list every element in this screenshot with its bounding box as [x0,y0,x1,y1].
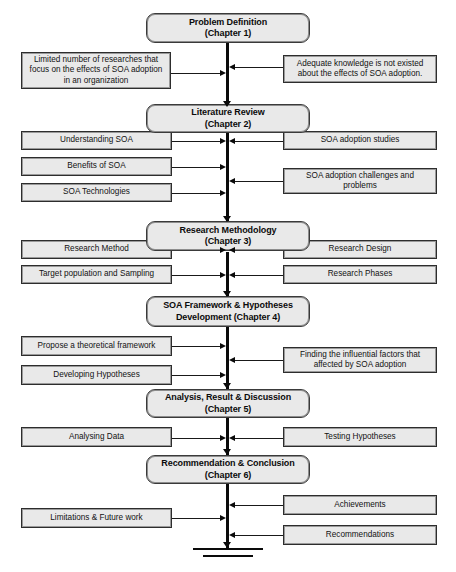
side-node-line1: Finding the influential factors that [300,350,420,361]
chapter-title-line1: Analysis, Result & Discussion [165,392,291,404]
side-node-soa-adoption-studies[interactable]: SOA adoption studies [283,131,437,150]
side-node-line1: Understanding SOA [60,135,133,146]
arrowhead-right-icon [220,70,226,76]
chapter-title-line2: (Chapter 5) [205,404,251,416]
side-node-line1: Achievements [334,500,385,511]
arrowhead-left-icon [229,247,235,253]
terminator-bar-wide [193,548,263,550]
chapter-title-line1: SOA Framework & Hypotheses [163,300,293,312]
chapter-title-line2: (Chapter 2) [205,119,251,131]
arrowhead-right-icon [220,343,226,349]
chapter-node-soa-framework-hypotheses[interactable]: SOA Framework & Hypotheses Development (… [146,296,310,327]
side-node-limitations-future-work[interactable]: Limitations & Future work [21,508,172,528]
side-node-line1: Research Phases [328,269,393,280]
connector-left-to-spine [172,346,222,347]
connector-right-to-spine [234,275,283,276]
side-node-line1: SOA Technologies [63,187,130,198]
arrowhead-left-icon [229,357,235,363]
chapter-title-line2: Development (Chapter 4) [176,312,280,324]
arrowhead-right-icon [220,164,226,170]
connector-left-to-spine [172,375,222,376]
flowchart-diagram: Problem Definition (Chapter 1) Limited n… [0,0,456,572]
side-node-adequate-knowledge[interactable]: Adequate knowledge is not existed about … [283,55,437,83]
chapter-title-line2: (Chapter 6) [205,470,251,482]
connector-right-to-spine [234,535,283,536]
connector-left-to-spine [172,518,222,519]
arrowhead-left-icon [229,178,235,184]
side-node-line1: Research Design [329,244,392,255]
side-node-recommendations[interactable]: Recommendations [283,525,437,545]
side-node-line1: Limited number of researches that [34,55,158,66]
connector-left-to-spine [171,73,222,74]
chapter-title-line1: Recommendation & Conclusion [161,458,294,470]
arrowhead-down-icon [223,216,231,222]
arrowhead-down-icon [223,101,231,107]
connector-left-to-spine [172,275,222,276]
side-node-line1: Adequate knowledge is not existed [297,59,424,70]
chapter-title-line2: (Chapter 3) [205,236,251,248]
side-node-soa-technologies[interactable]: SOA Technologies [21,183,172,202]
side-node-line1: Research Method [64,244,129,255]
side-node-finding-influential-factors[interactable]: Finding the influential factors that aff… [283,347,437,373]
side-node-line2: problems [343,181,377,192]
side-node-line1: Analysing Data [69,432,124,443]
connector-left-to-spine [172,193,222,194]
arrowhead-left-icon [229,272,235,278]
side-node-developing-hypotheses[interactable]: Developing Hypotheses [21,365,172,385]
side-node-line2: focus on the effects of SOA adoption [30,65,163,76]
terminator-bar-narrow [203,555,253,557]
chapter-node-research-methodology[interactable]: Research Methodology (Chapter 3) [146,221,310,251]
arrowhead-left-icon [229,435,235,441]
main-spine-segment [226,42,229,108]
side-node-line1: Testing Hypotheses [324,432,395,443]
chapter-title-line2: (Chapter 1) [205,28,251,40]
arrowhead-down-icon [223,291,231,297]
connector-left-to-spine [172,141,222,142]
chapter-node-recommendation-conclusion[interactable]: Recommendation & Conclusion (Chapter 6) [146,455,310,484]
side-node-limited-researches[interactable]: Limited number of researches that focus … [21,52,171,89]
arrowhead-left-icon [229,64,235,70]
side-node-testing-hypotheses[interactable]: Testing Hypotheses [283,427,437,447]
arrowhead-left-icon [229,138,235,144]
arrowhead-right-icon [220,190,226,196]
chapter-title-line1: Literature Review [191,107,264,119]
side-node-line2: about the effects of SOA adoption. [298,69,423,80]
side-node-line1: Target population and Sampling [39,269,154,280]
side-node-line1: Benefits of SOA [67,161,125,172]
side-node-research-phases[interactable]: Research Phases [283,265,437,284]
side-node-line3: in an organization [64,76,129,87]
arrowhead-down-icon [223,449,231,455]
side-node-understanding-soa[interactable]: Understanding SOA [21,131,172,150]
side-node-benefits-of-soa[interactable]: Benefits of SOA [21,157,172,176]
arrowhead-left-icon [229,532,235,538]
side-node-target-population-sampling[interactable]: Target population and Sampling [21,265,172,284]
chapter-node-literature-review[interactable]: Literature Review (Chapter 2) [146,104,310,133]
side-node-line1: Developing Hypotheses [53,370,139,381]
connector-right-to-spine [234,67,283,68]
connector-left-to-spine [172,438,222,439]
arrowhead-left-icon [229,502,235,508]
arrowhead-right-icon [220,515,226,521]
connector-right-to-spine [234,438,283,439]
side-node-line1: Limitations & Future work [50,513,142,524]
side-node-line1: Propose a theoretical framework [38,341,156,352]
main-spine-segment [226,483,229,550]
arrowhead-right-icon [220,138,226,144]
connector-right-to-spine [234,360,283,361]
side-node-achievements[interactable]: Achievements [283,495,437,515]
side-node-analysing-data[interactable]: Analysing Data [21,427,172,447]
side-node-line1: Recommendations [326,530,394,541]
arrowhead-down-icon [223,383,231,389]
chapter-node-analysis-result-discussion[interactable]: Analysis, Result & Discussion (Chapter 5… [146,389,310,418]
chapter-title-line1: Research Methodology [179,225,276,237]
arrowhead-right-icon [220,272,226,278]
side-node-propose-theoretical-framework[interactable]: Propose a theoretical framework [21,336,172,356]
side-node-line1: SOA adoption studies [321,135,400,146]
side-node-line2: affected by SOA adoption [314,360,407,371]
side-node-soa-adoption-challenges[interactable]: SOA adoption challenges and problems [283,168,437,194]
chapter-title-line1: Problem Definition [189,17,267,29]
chapter-node-problem-definition[interactable]: Problem Definition (Chapter 1) [146,13,310,43]
connector-right-to-spine [234,505,283,506]
connector-right-to-spine [234,181,283,182]
connector-left-to-spine [172,167,222,168]
